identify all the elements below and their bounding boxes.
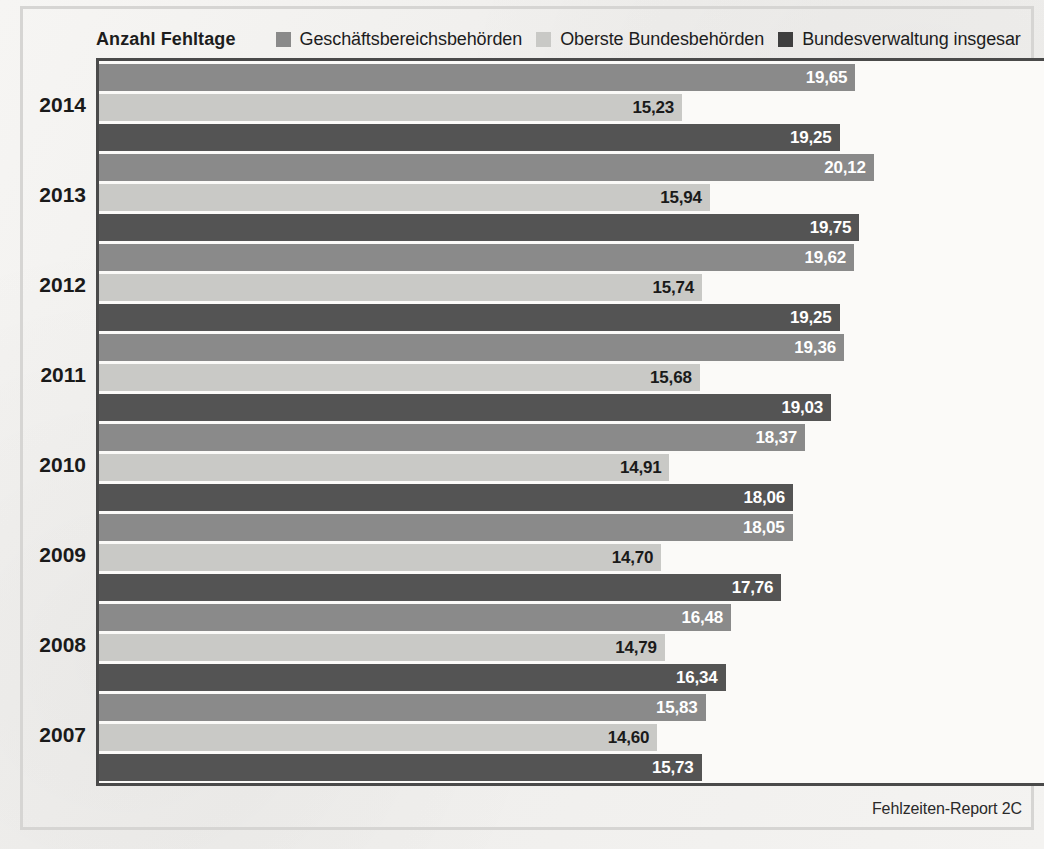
legend-entry: Geschäftsbereichsbehörden [276,29,523,50]
legend-label: Oberste Bundesbehörden [560,29,764,50]
bar-value-label: 16,34 [676,668,718,688]
bar-value-label: 15,74 [652,278,694,298]
bar-value-label: 19,62 [805,248,847,268]
bar-value-label: 17,76 [732,578,774,598]
bar-2013-series1[interactable]: 15,94 [99,184,710,211]
bar-value-label: 19,75 [810,218,852,238]
bar-2013-series2[interactable]: 19,75 [99,214,859,241]
bar-row: 15,73 [99,754,1044,781]
bar-row: 18,06 [99,484,1044,511]
bar-row: 14,70 [99,544,1044,571]
bar-2010-series0[interactable]: 18,37 [99,424,805,451]
bar-row: 19,25 [99,304,1044,331]
bar-row: 18,37 [99,424,1044,451]
bar-2011-series1[interactable]: 15,68 [99,364,700,391]
bar-value-label: 15,94 [660,188,702,208]
plot-area: 19,6515,2319,2520,1215,9419,7519,6215,74… [96,58,1044,786]
bar-2011-series2[interactable]: 19,03 [99,394,831,421]
bar-2012-series2[interactable]: 19,25 [99,304,840,331]
bar-value-label: 15,83 [656,698,698,718]
bar-2007-series2[interactable]: 15,73 [99,754,702,781]
bar-value-label: 20,12 [824,158,866,178]
bar-2014-series1[interactable]: 15,23 [99,94,682,121]
bar-value-label: 15,73 [652,758,694,778]
bar-row: 16,34 [99,664,1044,691]
bar-value-label: 18,06 [743,488,785,508]
axis-title-anzahl-fehltage: Anzahl Fehltage [96,29,236,50]
bar-row: 19,62 [99,244,1044,271]
bar-2007-series1[interactable]: 14,60 [99,724,657,751]
bar-2008-series1[interactable]: 14,79 [99,634,665,661]
bar-row: 14,60 [99,724,1044,751]
legend-swatch-icon [778,32,793,47]
bar-2008-series0[interactable]: 16,48 [99,604,731,631]
legend-swatch-icon [536,32,551,47]
bar-value-label: 19,25 [790,308,832,328]
bar-2010-series2[interactable]: 18,06 [99,484,793,511]
bars-layer: 19,6515,2319,2520,1215,9419,7519,6215,74… [99,61,1044,783]
bar-2009-series2[interactable]: 17,76 [99,574,781,601]
bar-2013-series0[interactable]: 20,12 [99,154,874,181]
bar-value-label: 14,91 [620,458,662,478]
bar-row: 15,74 [99,274,1044,301]
bar-value-label: 19,03 [781,398,823,418]
bar-value-label: 19,36 [794,338,836,358]
legend-label: Geschäftsbereichsbehörden [300,29,523,50]
legend-entry: Oberste Bundesbehörden [536,29,764,50]
bar-2009-series1[interactable]: 14,70 [99,544,661,571]
bar-value-label: 18,05 [743,518,785,538]
bar-row: 15,94 [99,184,1044,211]
bar-row: 19,36 [99,334,1044,361]
scanned-page: eine AbBundesbehen Sektor bDie Kranksond… [0,0,1044,849]
legend-label: Bundesverwaltung insgesar [802,29,1021,50]
bar-value-label: 14,79 [615,638,657,658]
bar-row: 18,05 [99,514,1044,541]
chart-header: Anzahl Fehltage Geschäftsbereichsbehörde… [96,24,1044,54]
chart-legend: GeschäftsbereichsbehördenOberste Bundesb… [276,29,1035,50]
bar-value-label: 15,68 [650,368,692,388]
bar-2011-series0[interactable]: 19,36 [99,334,844,361]
bar-2014-series0[interactable]: 19,65 [99,64,855,91]
bar-row: 20,12 [99,154,1044,181]
bar-2007-series0[interactable]: 15,83 [99,694,706,721]
bar-value-label: 16,48 [681,608,723,628]
bar-value-label: 14,70 [612,548,654,568]
bar-value-label: 19,25 [790,128,832,148]
bar-2014-series2[interactable]: 19,25 [99,124,840,151]
legend-swatch-icon [276,32,291,47]
bar-row: 15,83 [99,694,1044,721]
bar-2012-series1[interactable]: 15,74 [99,274,702,301]
bar-2010-series1[interactable]: 14,91 [99,454,669,481]
bar-row: 15,23 [99,94,1044,121]
bar-value-label: 15,23 [632,98,674,118]
bar-row: 17,76 [99,574,1044,601]
bar-row: 15,68 [99,364,1044,391]
source-credit: Fehlzeiten-Report 2C [872,800,1022,818]
bar-row: 14,91 [99,454,1044,481]
bar-2012-series0[interactable]: 19,62 [99,244,854,271]
bar-row: 19,03 [99,394,1044,421]
bar-value-label: 14,60 [608,728,650,748]
bar-row: 19,25 [99,124,1044,151]
bar-row: 19,65 [99,64,1044,91]
bar-2008-series2[interactable]: 16,34 [99,664,726,691]
bar-value-label: 19,65 [806,68,848,88]
legend-entry: Bundesverwaltung insgesar [778,29,1021,50]
bar-row: 14,79 [99,634,1044,661]
bar-row: 16,48 [99,604,1044,631]
bar-2009-series0[interactable]: 18,05 [99,514,793,541]
bar-value-label: 18,37 [756,428,798,448]
bar-row: 19,75 [99,214,1044,241]
